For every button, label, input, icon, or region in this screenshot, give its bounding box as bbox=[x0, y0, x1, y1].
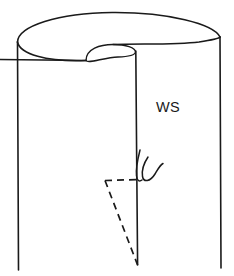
tube-top-rim-front-left bbox=[18, 42, 87, 61]
diagram-canvas: WS bbox=[0, 0, 234, 276]
cylinder-right-edge bbox=[220, 37, 221, 268]
sewing-diagram-figure: WS bbox=[0, 0, 234, 276]
fold-upper-edge bbox=[113, 37, 220, 45]
dart-top-dashed-line bbox=[105, 180, 136, 181]
cylinder-left-edge bbox=[18, 42, 19, 270]
tube-top-rim-back bbox=[18, 12, 221, 42]
fabric-slit-line bbox=[136, 51, 138, 265]
thread-tail-outer bbox=[142, 157, 163, 181]
wrong-side-label: WS bbox=[156, 99, 180, 115]
notch-lip-lower-arc bbox=[86, 52, 136, 62]
fold-under-shelf bbox=[0, 60, 86, 61]
dart-diagonal-dashed-line bbox=[105, 181, 138, 266]
